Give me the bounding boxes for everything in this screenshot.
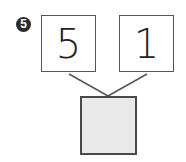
part-box-left: 5 [41, 15, 96, 72]
left-connector [69, 74, 108, 96]
right-connector [108, 74, 147, 96]
answer-box[interactable] [80, 96, 137, 155]
part-left-value: 5 [56, 21, 81, 67]
part-right-value: 1 [134, 21, 159, 67]
part-box-right: 1 [119, 15, 174, 72]
